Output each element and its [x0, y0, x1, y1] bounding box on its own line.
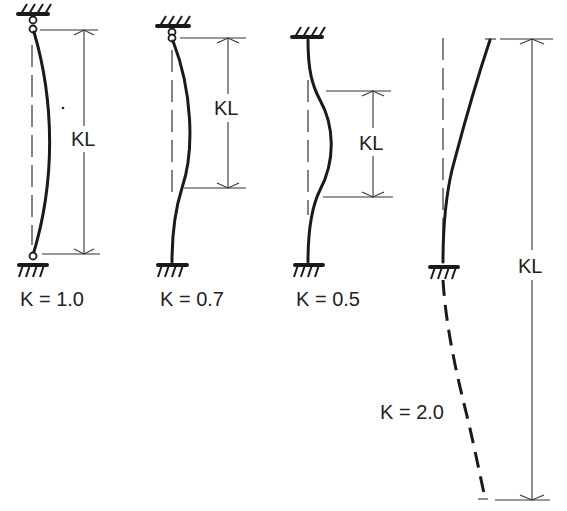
bottom-fixed-support-icon [19, 265, 47, 277]
k-factor-label: K = 1.0 [20, 288, 84, 310]
bottom-fixed-support-icon [294, 265, 323, 277]
bottom-fixed-support-icon [158, 265, 187, 277]
kl-label: KL [214, 97, 238, 119]
column-k-2-0: KL K = 2.0 [380, 38, 553, 500]
k-factor-label: K = 0.5 [296, 288, 360, 310]
top-fixed-support-icon [157, 16, 190, 26]
k-factor-label: K = 0.7 [160, 288, 224, 310]
column-k-0-5: KL K = 0.5 [292, 27, 393, 310]
stray-mark [62, 107, 65, 110]
kl-label: KL [71, 128, 95, 150]
fixed-support-icon [430, 267, 458, 279]
column-k-0-7: KL K = 0.7 [157, 16, 246, 310]
buckled-column [33, 32, 50, 255]
top-fixed-support-icon [18, 4, 51, 14]
effective-length-diagram: KL K = 1.0 KL K = 0.7 [0, 0, 567, 511]
top-fixed-support-icon [292, 27, 325, 37]
top-pin-icon [30, 17, 37, 24]
kl-label: KL [518, 255, 542, 277]
buckled-column [443, 40, 490, 262]
buckled-column [308, 40, 331, 262]
column-k-1-0: KL K = 1.0 [18, 4, 100, 310]
bottom-pin-icon [30, 253, 37, 260]
kl-label: KL [359, 132, 383, 154]
mirrored-buckled-column [443, 280, 485, 498]
buckled-column [172, 41, 190, 262]
k-factor-label: K = 2.0 [380, 401, 444, 423]
